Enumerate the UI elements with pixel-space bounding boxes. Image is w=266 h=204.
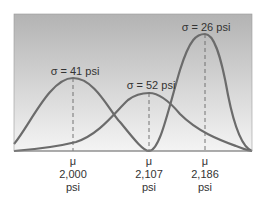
svg-text:2,000: 2,000: [59, 168, 87, 180]
normal-distributions-chart: σ = 41 psi σ = 52 psi σ = 26 psi μ 2,000…: [0, 0, 266, 204]
mean-label-1: μ 2,000 psi: [59, 155, 87, 193]
mean-label-3: μ 2,186 psi: [191, 155, 219, 193]
svg-text:μ: μ: [146, 155, 152, 167]
svg-text:psi: psi: [142, 181, 156, 193]
svg-text:μ: μ: [202, 155, 208, 167]
sigma-label-3: σ = 26 psi: [182, 21, 231, 33]
svg-text:2,186: 2,186: [191, 168, 219, 180]
mean-label-2: μ 2,107 psi: [135, 155, 163, 193]
svg-text:psi: psi: [66, 181, 80, 193]
svg-text:μ: μ: [70, 155, 76, 167]
sigma-label-2: σ = 52 psi: [127, 79, 176, 91]
svg-text:psi: psi: [198, 181, 212, 193]
sigma-label-1: σ = 41 psi: [51, 65, 100, 77]
svg-text:2,107: 2,107: [135, 168, 163, 180]
